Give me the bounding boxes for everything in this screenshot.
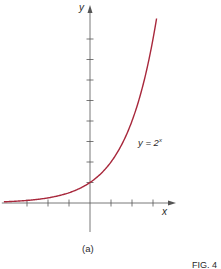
panel-label: (a) xyxy=(82,243,94,254)
exponential-curve xyxy=(4,18,157,201)
axes xyxy=(2,5,176,232)
annotation-exponent: x xyxy=(159,137,162,143)
figure-label: FIG. 4 xyxy=(192,260,217,269)
x-axis-label: x xyxy=(162,206,167,217)
y-axis-label: y xyxy=(79,2,84,13)
y-axis-arrow-icon xyxy=(88,5,93,13)
chart-plot xyxy=(0,0,221,269)
curve-annotation: y = 2x xyxy=(138,137,162,148)
annotation-base: y = 2 xyxy=(138,137,159,148)
x-axis-arrow-icon xyxy=(168,201,176,206)
